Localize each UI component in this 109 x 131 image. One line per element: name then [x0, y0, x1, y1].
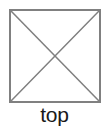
view-indicator-figure: top	[0, 0, 109, 131]
view-label: top	[0, 103, 109, 127]
square-with-diagonals-icon	[8, 8, 102, 104]
